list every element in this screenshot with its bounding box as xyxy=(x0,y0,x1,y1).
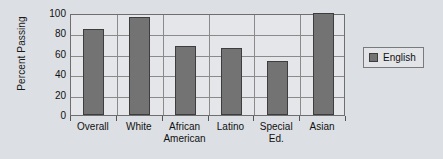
legend-label-english: English xyxy=(383,52,416,63)
plot-area xyxy=(70,14,345,116)
bar xyxy=(129,17,150,115)
x-category-label-line: Ed. xyxy=(269,133,284,144)
x-axis-category-labels: OverallWhiteAfricanAmericanLatinoSpecial… xyxy=(70,121,345,155)
bar xyxy=(83,29,104,115)
x-category-label: Latino xyxy=(208,121,254,133)
y-tick-label: 100 xyxy=(49,9,66,19)
legend-swatch-english xyxy=(369,53,378,62)
x-category-label: White xyxy=(116,121,162,133)
x-tick-mark xyxy=(345,116,346,121)
x-category-label: SpecialEd. xyxy=(253,121,299,145)
x-category-label-line: African xyxy=(169,121,200,132)
x-category-label-line: Special xyxy=(260,121,293,132)
y-tick-label: 80 xyxy=(55,29,66,39)
chart-legend: English xyxy=(363,47,424,68)
y-tick-label: 20 xyxy=(55,91,66,101)
bar xyxy=(313,13,334,115)
y-tick-label: 0 xyxy=(60,111,66,121)
bar xyxy=(221,48,242,115)
x-category-label-line: American xyxy=(163,133,205,144)
bar xyxy=(175,46,196,115)
y-tick-label: 40 xyxy=(55,70,66,80)
x-category-label: Overall xyxy=(70,121,116,133)
y-axis-title: Percent Passing xyxy=(16,4,27,104)
bar xyxy=(267,61,288,115)
y-axis-tick-labels: 020406080100 xyxy=(38,14,66,116)
x-category-label: AfricanAmerican xyxy=(162,121,208,145)
bar-series-english xyxy=(71,15,344,115)
bar-chart-figure: Percent Passing 020406080100 OverallWhit… xyxy=(0,0,443,159)
y-tick-label: 60 xyxy=(55,50,66,60)
x-category-label: Asian xyxy=(299,121,345,133)
